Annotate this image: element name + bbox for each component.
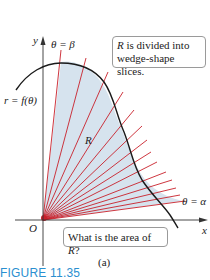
callout-region-symbol: R [117, 39, 124, 51]
question-region-symbol: R [68, 244, 75, 256]
callout-text-line1: is divided into [124, 39, 190, 51]
y-axis-label: y [33, 34, 38, 46]
figure-caption: FIGURE 11.35 [0, 266, 80, 280]
curve-label: r = f(θ) [4, 94, 37, 106]
region-label: R [85, 134, 92, 146]
theta-beta-label: θ = β [51, 38, 75, 50]
theta-alpha-label: θ = α [182, 195, 206, 207]
callout-wedge-slices: R is divided into wedge-shape slices. [112, 36, 206, 68]
question-mark: ? [75, 244, 80, 256]
x-axis-arrow-icon [199, 218, 208, 223]
callout-area-question: What is the area of R? [63, 227, 168, 247]
x-axis-label: x [202, 224, 207, 236]
question-text: What is the area of [68, 231, 151, 243]
subfigure-label: (a) [98, 256, 110, 268]
origin-label: O [29, 222, 37, 234]
y-axis-arrow-icon [41, 36, 46, 45]
